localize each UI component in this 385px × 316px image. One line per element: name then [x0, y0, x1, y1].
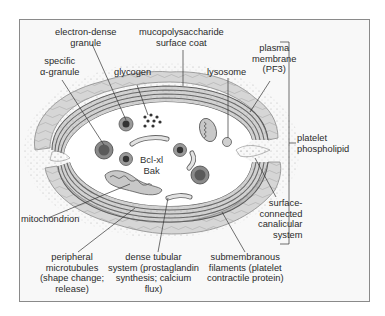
label-line: granule	[55, 38, 117, 49]
label-line: connected	[258, 209, 302, 220]
label-glycogen: glycogen	[114, 67, 151, 78]
label-line: microtubules	[40, 263, 104, 274]
label-platelet-phospholipid: platelet phospholipid	[297, 133, 349, 154]
label-line: filaments (platelet	[207, 263, 283, 274]
label-mitochondrion: mitochondrion	[21, 214, 79, 225]
label-line: Bak	[140, 165, 163, 176]
label-line: membrane	[252, 54, 296, 65]
electron-dense-granule-left	[120, 153, 133, 166]
label-line: platelet	[297, 133, 349, 144]
label-line: surface coat	[139, 38, 224, 49]
label-line: release)	[40, 284, 104, 295]
label-line: mucopolysaccharide	[139, 27, 224, 38]
label-line: flux)	[108, 284, 199, 295]
label-line: dense tubular	[108, 252, 199, 263]
label-line: system (prostaglandin	[108, 263, 199, 274]
label-line: phospholipid	[297, 144, 349, 155]
label-electron-dense-granule: electron-dense granule	[55, 27, 117, 48]
dense-tubular-lower	[168, 196, 190, 198]
label-line: contractile protein)	[207, 273, 283, 284]
label-line: synthesis; calcium	[108, 273, 199, 284]
label-line: α-granule	[40, 67, 80, 78]
label-line: system	[258, 230, 302, 241]
label-surface-connected-canalicular-system: surface- connected canalicular system	[258, 198, 302, 240]
label-line: (PF3)	[252, 64, 296, 75]
label-line: lysosome	[207, 67, 246, 78]
electron-dense-granule-upper	[119, 117, 133, 131]
label-line: (shape change;	[40, 273, 104, 284]
label-line: electron-dense	[55, 27, 117, 38]
label-line: glycogen	[114, 67, 151, 78]
label-line: submembranous	[207, 252, 283, 263]
label-submembranous-filaments: submembranous filaments (platelet contra…	[207, 252, 283, 284]
label-line: specific	[40, 56, 80, 67]
label-peripheral-microtubules: peripheral microtubules (shape change; r…	[40, 252, 104, 294]
label-mucopolysaccharide-coat: mucopolysaccharide surface coat	[139, 27, 224, 48]
electron-dense-granule-center	[174, 144, 187, 157]
label-bcl-xl-bak: Bcl-xl Bak	[140, 154, 163, 176]
label-line: surface-	[258, 198, 302, 209]
label-specific-alpha-granule: specific α-granule	[40, 56, 80, 77]
lysosome	[223, 138, 232, 147]
label-line: Bcl-xl	[140, 154, 163, 165]
label-line: plasma	[252, 43, 296, 54]
label-line: peripheral	[40, 252, 104, 263]
alpha-granule-right	[191, 166, 209, 184]
label-lysosome: lysosome	[207, 67, 246, 78]
label-line: mitochondrion	[21, 214, 79, 225]
label-plasma-membrane: plasma membrane (PF3)	[252, 43, 296, 75]
label-line: canalicular	[258, 219, 302, 230]
label-dense-tubular-system: dense tubular system (prostaglandin synt…	[108, 252, 199, 294]
alpha-granule-left	[95, 141, 113, 159]
